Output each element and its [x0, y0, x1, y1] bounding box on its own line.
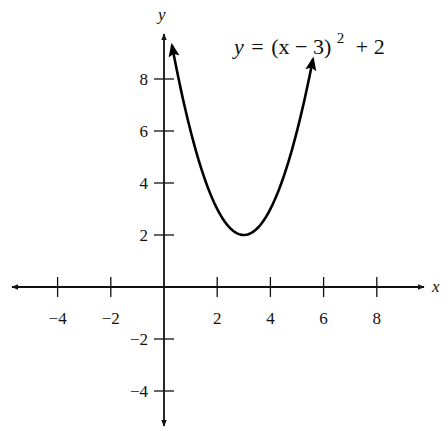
y-tick-label: 2: [140, 226, 149, 245]
equation-base: (x − 3): [271, 34, 331, 59]
parabola-curve: [172, 45, 313, 235]
y-tick-label: 4: [140, 174, 149, 193]
y-axis-ticks: −4−22468: [130, 70, 174, 401]
x-tick-label: 2: [213, 309, 222, 328]
equation-lhs: y: [232, 34, 244, 59]
x-axis-label: x: [431, 277, 440, 296]
x-tick-label: 4: [266, 309, 275, 328]
equation-label: y = (x − 3) 2 + 2: [232, 23, 385, 59]
y-tick-label: 8: [140, 70, 149, 89]
x-tick-label: 8: [373, 309, 382, 328]
x-tick-label: −2: [102, 309, 120, 328]
x-tick-label: 6: [319, 309, 328, 328]
y-tick-label: −2: [130, 330, 148, 349]
equation-exponent: 2: [337, 30, 345, 46]
x-tick-label: −4: [49, 309, 68, 328]
equation-tail: + 2: [356, 34, 385, 59]
parabola-chart: −4−22468 −4−22468 x y y = (x − 3) 2 + 2: [0, 0, 445, 436]
y-axis-label: y: [156, 5, 166, 24]
y-tick-label: 6: [140, 122, 149, 141]
y-tick-label: −4: [130, 382, 149, 401]
equation-equals: =: [251, 34, 263, 59]
x-axis-ticks: −4−22468: [49, 277, 381, 328]
